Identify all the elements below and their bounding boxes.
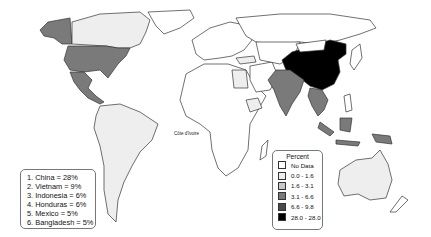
region-canada (72, 12, 150, 48)
legend-swatch (278, 161, 286, 169)
region-new-zealand (390, 196, 408, 212)
region-russia (236, 14, 376, 44)
region-egypt (232, 70, 248, 88)
region-mexico (70, 72, 104, 104)
legend-title: Percent (273, 153, 322, 160)
legend-swatch (278, 192, 286, 200)
region-greenland (148, 10, 194, 34)
legend: Percent No Data 0.0 - 1.6 1.6 - 3.1 3.1 … (272, 150, 323, 230)
label-cote-divoire: Côte d'Ivoire (174, 131, 199, 136)
legend-label: 6.6 - 9.8 (291, 203, 314, 210)
region-alaska (40, 18, 72, 44)
region-indonesia-borneo (340, 118, 352, 132)
ranking-box: 1. China = 28% 2. Vietnam = 9% 3. Indone… (20, 169, 96, 229)
legend-label: 3.1 - 6.6 (291, 193, 314, 200)
legend-label: 0.0 - 1.6 (291, 172, 314, 179)
legend-item: 3.1 - 6.6 (273, 191, 322, 201)
region-indonesia-sumatra (318, 122, 334, 136)
legend-swatch (278, 213, 286, 221)
legend-label: 1.6 - 3.1 (291, 182, 314, 189)
region-japan (350, 44, 362, 70)
legend-label: 28.0 - 28.0 (291, 214, 321, 221)
region-south-america (94, 104, 158, 222)
legend-label: No Data (291, 162, 314, 169)
ranking-line: 6. Bangladesh = 5% (27, 219, 95, 228)
region-indonesia-java (336, 140, 360, 146)
region-new-guinea (372, 134, 392, 144)
region-india (268, 70, 304, 116)
region-australia (338, 150, 392, 200)
region-southeast-asia (308, 88, 328, 116)
legend-item: 6.6 - 9.8 (273, 202, 322, 212)
legend-item: 28.0 - 28.0 (273, 212, 322, 222)
region-madagascar (260, 140, 268, 160)
legend-swatch (278, 182, 286, 190)
legend-swatch (278, 203, 286, 211)
legend-item: 0.0 - 1.6 (273, 170, 322, 180)
region-philippines (344, 94, 352, 112)
legend-item: No Data (273, 160, 322, 170)
legend-item: 1.6 - 3.1 (273, 181, 322, 191)
legend-swatch (278, 172, 286, 180)
region-turkey (236, 56, 256, 64)
